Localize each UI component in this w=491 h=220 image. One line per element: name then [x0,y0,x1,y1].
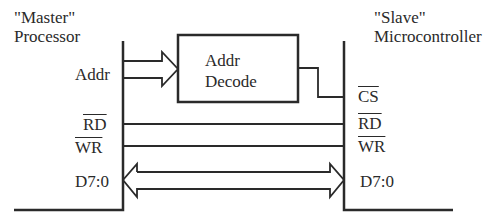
master-data-label: D7:0 [75,173,109,191]
data-bus-arrow [123,164,344,197]
slave-title-line2: Microcontroller [374,28,482,46]
master-addr-label: Addr [75,66,110,84]
slave-title-line1: "Slave" [374,9,426,27]
master-title-line1: "Master" [14,9,75,27]
slave-cs-label: CS [358,88,379,106]
master-title-line2: Processor [14,28,80,46]
cs-line [298,68,344,97]
decoder-label-line1: Addr [205,52,240,70]
addr-bus-arrow [123,52,178,86]
slave-rd-label: RD [358,115,382,133]
bus-interface-diagram: "Master" Processor "Slave" Microcontroll… [0,0,491,220]
master-rd-label: RD [83,116,107,134]
decoder-label-line2: Decode [205,73,257,91]
master-wr-label: WR [75,139,102,157]
slave-data-label: D7:0 [360,173,394,191]
slave-wr-label: WR [358,138,385,156]
